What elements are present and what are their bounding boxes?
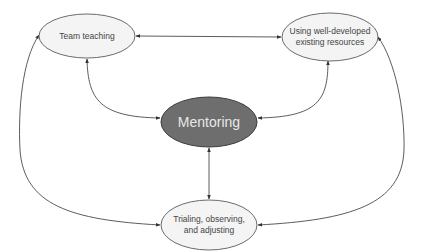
edge-team-to-mentoring [87,59,160,118]
node-trialing [161,200,257,250]
node-mentoring [161,97,257,147]
edge-resources-to-trialing [258,37,404,225]
node-existing-resources [282,13,378,61]
node-team-teaching [39,14,135,58]
concept-diagram [0,0,422,252]
edge-team-to-trialing [20,35,160,225]
edge-resources-to-mentoring [258,61,328,118]
edge-team-to-resources [136,36,281,37]
